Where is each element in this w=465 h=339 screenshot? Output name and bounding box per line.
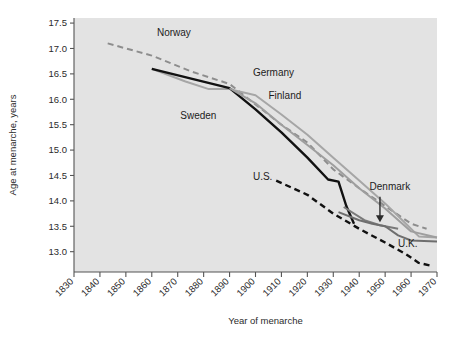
series-label-norway: Norway <box>157 27 191 38</box>
x-axis-tick-label: 1970 <box>416 276 439 299</box>
y-axis-tick-label: 17.0 <box>49 43 68 54</box>
x-axis-tick-label: 1840 <box>79 276 102 299</box>
y-axis-title: Age at menarche, years <box>7 94 18 195</box>
x-axis-title: Year of menarche <box>228 315 303 326</box>
x-axis-tick-label: 1960 <box>390 276 413 299</box>
plot-area-background <box>74 18 437 272</box>
y-axis-tick-label: 15.0 <box>49 144 68 155</box>
series-label-sweden: Sweden <box>180 110 216 121</box>
menarche-age-line-chart: 17.517.016.516.015.515.014.514.013.513.0… <box>0 0 465 339</box>
y-axis-tick-label: 13.0 <box>49 246 68 257</box>
series-label-uk: U.K. <box>398 238 417 249</box>
x-axis-tick-label: 1900 <box>234 276 257 299</box>
y-axis-tick-label: 13.5 <box>49 221 68 232</box>
x-axis-tick-label: 1850 <box>105 276 128 299</box>
series-label-us: U.S. <box>253 171 272 182</box>
chart-container: 17.517.016.516.015.515.014.514.013.513.0… <box>0 0 465 339</box>
y-axis-tick-label: 17.5 <box>49 17 68 28</box>
series-label-denmark: Denmark <box>370 181 412 192</box>
x-axis-tick-label: 1910 <box>260 276 283 299</box>
x-axis-tick-label: 1890 <box>208 276 231 299</box>
y-axis-tick-label: 16.5 <box>49 68 68 79</box>
x-axis-tick-label: 1870 <box>156 276 179 299</box>
x-axis-tick-label: 1940 <box>338 276 361 299</box>
x-axis-tick-label: 1930 <box>312 276 335 299</box>
x-axis-tick-label: 1920 <box>286 276 309 299</box>
x-axis-tick-label: 1860 <box>130 276 153 299</box>
x-axis-tick-label: 1880 <box>182 276 205 299</box>
x-axis-tick-label: 1830 <box>53 276 76 299</box>
series-label-germany: Germany <box>253 67 294 78</box>
series-label-finland: Finland <box>268 90 301 101</box>
y-axis-tick-label: 16.0 <box>49 94 68 105</box>
x-axis-tick-label: 1950 <box>364 276 387 299</box>
y-axis-tick-label: 14.5 <box>49 170 68 181</box>
y-axis-tick-label: 14.0 <box>49 195 68 206</box>
y-axis-tick-label: 15.5 <box>49 119 68 130</box>
